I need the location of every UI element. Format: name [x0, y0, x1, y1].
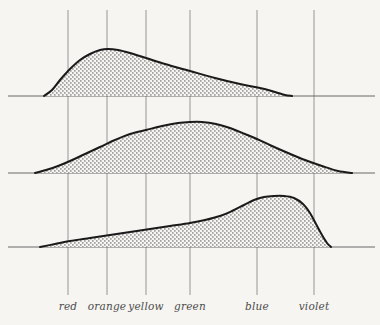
curve-group — [8, 49, 375, 247]
curve-1 — [8, 49, 375, 96]
axis-label-orange: orange — [88, 300, 127, 312]
spectral-curves-plot — [0, 0, 380, 325]
curve-3 — [8, 196, 375, 247]
curve-2-fill — [35, 122, 352, 173]
axis-label-blue: blue — [245, 300, 269, 312]
spectral-curves-figure: redorangeyellowgreenblueviolet — [0, 0, 380, 325]
curve-2 — [8, 122, 375, 173]
axis-label-red: red — [59, 300, 78, 312]
axis-label-violet: violet — [299, 300, 330, 312]
axis-label-yellow: yellow — [128, 300, 163, 312]
curve-1-fill — [44, 49, 292, 96]
axis-label-green: green — [174, 300, 206, 312]
